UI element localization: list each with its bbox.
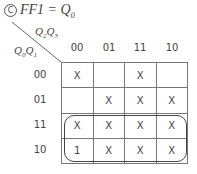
kmap-cell [62,88,94,113]
col-variable-label: Q2Q3 [35,25,58,40]
row-header: 11 [25,119,55,130]
kmap-cell: X [125,63,157,88]
col-header: 01 [93,42,125,53]
row-header: 00 [25,69,55,80]
kmap-cell: X [125,88,157,113]
col-header: 10 [156,42,188,53]
grouping-loop [64,115,187,162]
col-header: 11 [124,42,156,53]
kmap-cell: X [93,88,125,113]
kmap-cell: X [156,88,188,113]
row-variable-label: Q0Q1 [14,44,37,59]
row-header: 10 [25,144,55,155]
kmap-cell [156,63,188,88]
col-header: 00 [61,42,93,53]
kmap-cell [93,63,125,88]
row-header: 01 [25,94,55,105]
kmap-cell: X [62,63,94,88]
kmap-row: X X X [62,88,188,113]
kmap-row: X X [62,63,188,88]
